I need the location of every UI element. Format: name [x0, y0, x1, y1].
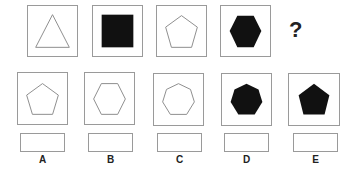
sequence-cell-1-triangle [27, 5, 78, 57]
option-d-label: D [224, 154, 269, 165]
option-e-answer-box[interactable] [293, 133, 338, 152]
heptagon-outline-icon [154, 74, 203, 125]
hexagon-outline-icon [85, 73, 134, 124]
option-a-answer-box[interactable] [20, 133, 65, 152]
pentagon-filled-icon [289, 74, 339, 125]
option-a-label: A [20, 154, 65, 165]
option-e-label: E [293, 154, 338, 165]
sequence-cell-4-hexagon [220, 5, 271, 57]
option-b-label: B [88, 154, 133, 165]
option-a-figure[interactable] [17, 72, 68, 125]
option-e-figure[interactable] [288, 73, 340, 126]
option-b-answer-box[interactable] [88, 133, 133, 152]
sequence-cell-2-square [92, 5, 143, 57]
option-c-answer-box[interactable] [157, 133, 202, 152]
option-c-label: C [157, 154, 202, 165]
hexagon-filled-icon [221, 6, 270, 56]
option-d-figure[interactable] [221, 73, 272, 126]
sequence-cell-3-pentagon [156, 5, 207, 57]
pentagon-outline-icon [18, 73, 67, 124]
missing-item-question-mark: ? [289, 17, 302, 43]
square-filled-icon [93, 6, 142, 56]
option-d-answer-box[interactable] [224, 133, 269, 152]
option-c-figure[interactable] [153, 73, 204, 126]
pentagon-outline-icon [157, 6, 206, 56]
triangle-outline-icon [28, 6, 77, 56]
heptagon-filled-icon [222, 74, 271, 125]
option-b-figure[interactable] [84, 72, 135, 125]
